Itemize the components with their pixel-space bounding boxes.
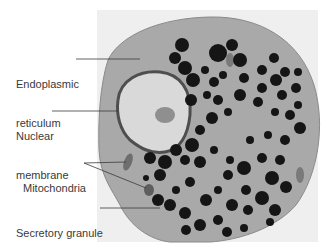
mitochondrion [296,167,304,183]
mitochondrion [144,184,154,196]
label-line-1: Endoplasmic [16,78,79,91]
mitochondrion [226,53,234,67]
label-secretory-granule: Secretory granule [16,201,103,252]
label-line-1: Mitochondria [23,182,86,195]
label-line-1: Secretory granule [16,227,103,240]
nucleus [118,72,191,153]
label-line-1: Nuclear [16,130,69,143]
nucleolus [155,107,175,123]
